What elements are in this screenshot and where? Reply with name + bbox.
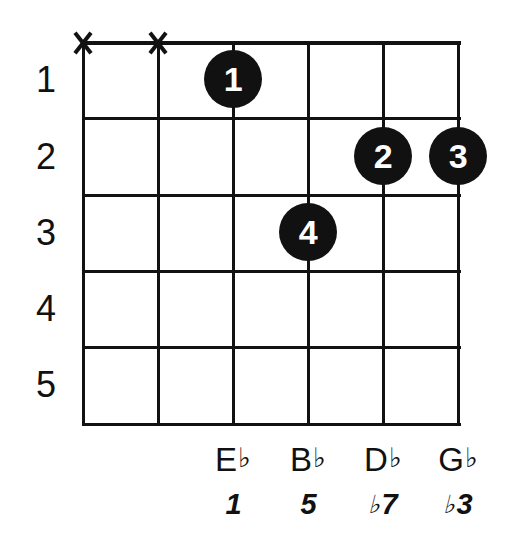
fret-line-1: [83, 117, 461, 120]
flat-icon: ♭: [238, 443, 251, 473]
fret-number-3: 3: [23, 215, 69, 251]
flat-icon: ♭: [389, 443, 402, 473]
string-line-6: [457, 41, 460, 426]
interval-degree: 5: [300, 488, 316, 520]
fret-line-4: [83, 346, 461, 349]
fret-number-4: 4: [23, 291, 69, 327]
finger-dot-string-4-fret-3: 4: [279, 203, 337, 261]
finger-dot-number: 2: [374, 139, 392, 173]
flat-icon: ♭: [368, 490, 380, 518]
fret-number-2: 2: [23, 139, 69, 175]
note-letter: E: [215, 441, 237, 478]
fret-line-3: [83, 270, 461, 273]
muted-string-marker-string-2: [145, 30, 171, 56]
string-line-2: [157, 41, 160, 426]
fret-line-5: [83, 423, 461, 426]
note-letter: G: [438, 441, 464, 478]
fret-number-5: 5: [23, 367, 69, 403]
flat-icon: ♭: [313, 443, 326, 473]
finger-dot-string-6-fret-2: 3: [429, 127, 487, 185]
finger-dot-string-3-fret-1: 1: [204, 50, 262, 108]
note-letter: B: [290, 441, 312, 478]
finger-dot-string-5-fret-2: 2: [354, 127, 412, 185]
finger-dot-number: 4: [299, 215, 317, 249]
string-line-5: [382, 41, 385, 426]
flat-icon: ♭: [465, 443, 478, 473]
nut-line: [83, 41, 461, 45]
muted-string-marker-string-1: [70, 30, 96, 56]
finger-dot-number: 3: [449, 139, 467, 173]
note-letter: D: [364, 441, 388, 478]
interval-string-6: ♭3: [413, 490, 503, 519]
string-line-1: [82, 41, 85, 426]
interval-degree: 7: [381, 488, 397, 520]
fret-number-1: 1: [23, 62, 69, 98]
fret-line-2: [83, 194, 461, 197]
chord-diagram: 1 2 3 4 5 1 2 3 4 E♭ B♭ D♭ G♭ 1 5 ♭7 ♭3: [0, 0, 515, 547]
note-name-string-6: G♭: [413, 443, 503, 476]
interval-degree: 3: [456, 488, 472, 520]
flat-icon: ♭: [443, 490, 455, 518]
interval-degree: 1: [225, 488, 241, 520]
finger-dot-number: 1: [224, 62, 242, 96]
